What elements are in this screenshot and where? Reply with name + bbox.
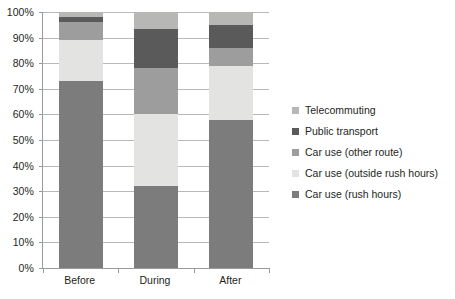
- legend-label: Telecommuting: [305, 105, 376, 116]
- bar-segment: [59, 22, 103, 40]
- x-tick-mark: [194, 268, 195, 273]
- y-axis: 0%10%20%30%40%50%60%70%80%90%100%: [0, 0, 38, 299]
- y-tick-label: 20%: [13, 211, 34, 223]
- y-tick-label: 90%: [13, 32, 34, 44]
- bar-segment: [209, 48, 253, 66]
- legend-swatch-icon: [292, 191, 299, 198]
- bar-segment: [209, 12, 253, 25]
- x-axis: BeforeDuringAfter: [42, 274, 268, 294]
- legend-label: Car use (rush hours): [305, 189, 401, 200]
- bar-after: [209, 12, 253, 268]
- y-tick-label: 30%: [13, 185, 34, 197]
- legend-item[interactable]: Car use (other route): [292, 142, 452, 163]
- y-tick-label: 40%: [13, 160, 34, 172]
- legend-label: Public transport: [305, 126, 378, 137]
- y-tick-label: 10%: [13, 236, 34, 248]
- bar-during: [134, 12, 178, 268]
- x-axis-label-during: During: [140, 274, 171, 286]
- y-tick-label: 50%: [13, 134, 34, 146]
- bar-before: [59, 12, 103, 268]
- y-tick-label: 80%: [13, 57, 34, 69]
- x-axis-label-after: After: [219, 274, 241, 286]
- x-tick-mark: [43, 268, 44, 273]
- bar-segment: [59, 17, 103, 22]
- legend-swatch-icon: [292, 170, 299, 177]
- legend-swatch-icon: [292, 107, 299, 114]
- bar-segment: [134, 12, 178, 29]
- bar-segment: [134, 186, 178, 268]
- legend-item[interactable]: Car use (outside rush hours): [292, 163, 452, 184]
- x-tick-mark: [269, 268, 270, 273]
- bar-segment: [209, 120, 253, 268]
- y-tick-label: 100%: [7, 6, 34, 18]
- bar-segment: [134, 68, 178, 114]
- bar-segment: [209, 66, 253, 120]
- legend-item[interactable]: Car use (rush hours): [292, 184, 452, 205]
- plot-area: [42, 12, 269, 269]
- y-tick-label: 0%: [19, 262, 34, 274]
- bar-segment: [209, 25, 253, 48]
- bar-segment: [59, 40, 103, 81]
- y-tick-label: 60%: [13, 108, 34, 120]
- y-tick-label: 70%: [13, 83, 34, 95]
- legend-label: Car use (outside rush hours): [305, 168, 438, 179]
- stacked-bar-chart: 0%10%20%30%40%50%60%70%80%90%100% Before…: [0, 0, 455, 299]
- legend-label: Car use (other route): [305, 147, 402, 158]
- legend-item[interactable]: Public transport: [292, 121, 452, 142]
- bar-segment: [134, 114, 178, 186]
- legend-swatch-icon: [292, 128, 299, 135]
- legend: TelecommutingPublic transportCar use (ot…: [292, 100, 452, 205]
- bar-segment: [59, 12, 103, 17]
- bar-segment: [134, 29, 178, 69]
- x-axis-label-before: Before: [64, 274, 95, 286]
- bars: [43, 12, 269, 268]
- legend-item[interactable]: Telecommuting: [292, 100, 452, 121]
- legend-swatch-icon: [292, 149, 299, 156]
- x-tick-mark: [118, 268, 119, 273]
- bar-segment: [59, 81, 103, 268]
